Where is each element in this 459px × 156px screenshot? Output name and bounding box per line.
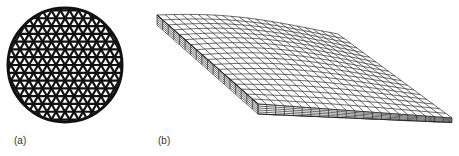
panel-b-mesh xyxy=(157,14,452,122)
figure-canvas xyxy=(0,0,459,156)
panel-a-lattice xyxy=(0,0,195,156)
panel-b-label: (b) xyxy=(158,135,170,146)
panel-a-label: (a) xyxy=(14,135,26,146)
